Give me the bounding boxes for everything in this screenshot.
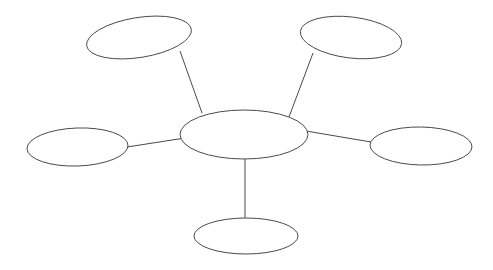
diagram-canvas [0,0,493,270]
center-node[interactable] [180,110,308,159]
node-top-left-ellipse[interactable] [84,9,195,65]
connector-line-left[interactable] [127,138,185,147]
node-top-right[interactable] [298,11,404,64]
node-left[interactable] [26,126,128,168]
node-right[interactable] [370,126,473,166]
node-right-ellipse[interactable] [370,126,473,166]
node-bottom[interactable] [194,218,298,254]
node-top-left[interactable] [84,9,195,65]
connector-line-top-left[interactable] [180,51,202,113]
node-top-right-ellipse[interactable] [298,11,404,64]
concept-map-diagram [0,0,493,270]
node-left-ellipse[interactable] [26,126,128,168]
center-node-ellipse[interactable] [180,110,308,159]
node-bottom-ellipse[interactable] [194,218,298,254]
connector-line-right[interactable] [306,131,371,142]
connector-line-top-right[interactable] [289,53,313,117]
